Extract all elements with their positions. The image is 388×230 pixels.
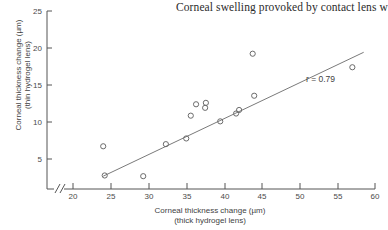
x-tick-label-60: 60 [365,192,385,201]
data-point [101,144,106,149]
data-point [203,100,208,105]
y-tick-label-5: 5 [24,155,42,164]
data-point [193,102,198,107]
data-point [350,65,355,70]
y-axis-title: Corneal thickness change (µm) (thin hydr… [14,0,32,155]
x-tick-label-40: 40 [215,192,235,201]
x-tick-label-50: 50 [290,192,310,201]
y-axis-ticks [47,11,52,159]
data-point [188,113,193,118]
data-point [252,93,257,98]
x-tick-label-35: 35 [177,192,197,201]
x-tick-label-25: 25 [101,192,121,201]
correlation-annotation: r = 0.79 [306,74,335,84]
axis-lines [47,11,375,193]
x-axis-title-line2: (thick hydrogel lens) [174,216,246,225]
x-axis-title-line1: Corneal thickness change (µm) [155,206,266,215]
data-point [141,174,146,179]
data-point [250,51,255,56]
x-tick-label-45: 45 [252,192,272,201]
x-tick-label-30: 30 [139,192,159,201]
x-axis-title: Corneal thickness change (µm) (thick hyd… [110,206,310,224]
x-tick-label-20: 20 [63,192,83,201]
y-axis-title-line2: (thin hydrogel lens) [23,0,32,155]
y-axis-title-line1: Corneal thickness change (µm) [14,0,23,155]
x-tick-label-55: 55 [328,192,348,201]
x-axis-ticks [73,183,375,189]
data-point [203,105,208,110]
